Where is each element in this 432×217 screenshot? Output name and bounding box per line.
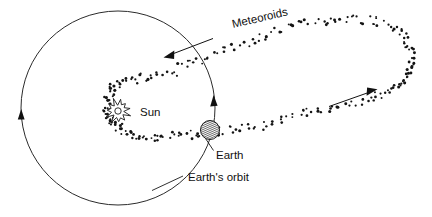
meteoroid-dot — [379, 93, 381, 95]
meteoroid-dot — [374, 96, 377, 99]
meteoroid-dot — [375, 24, 378, 27]
meteoroid-dot — [406, 68, 409, 71]
meteoroid-dot — [207, 57, 209, 59]
meteoroid-dot — [181, 63, 183, 65]
meteoroid-dot — [243, 41, 246, 44]
meteoroid-dot — [252, 38, 255, 41]
meteoroid-dot — [125, 130, 127, 132]
meteoroid-dot — [156, 135, 158, 137]
meteoroid-dot — [145, 80, 147, 82]
meteoroid-dot — [229, 125, 231, 127]
meteoroid-dot — [223, 46, 225, 48]
meteoroid-dot — [125, 77, 128, 80]
meteoroid-dot — [254, 42, 257, 45]
meteoroid-dot — [195, 57, 198, 60]
meteoroid-dot — [138, 73, 141, 76]
meteoroid-dot — [248, 45, 250, 47]
meteoroid-dot — [154, 139, 156, 141]
meteoroid-dot — [350, 100, 352, 102]
meteoroid-dot — [300, 21, 303, 24]
meteoroid-dot — [334, 20, 336, 22]
meteoroid-dot — [381, 97, 383, 99]
earth-label: Earth — [216, 149, 244, 161]
meteoroid-dot — [323, 20, 325, 22]
meteoroid-dot — [405, 32, 407, 34]
meteoroid-arrow-inbound-shaft — [171, 39, 213, 55]
meteoroid-dot — [129, 130, 132, 133]
meteoroid-dot — [222, 133, 224, 135]
meteoroid-dot — [134, 78, 136, 80]
meteoroid-dot — [396, 26, 398, 28]
meteoroid-dot — [166, 71, 169, 74]
meteoroid-dot — [413, 51, 416, 54]
meteoroid-dot — [280, 121, 283, 124]
meteoroid-dot — [195, 134, 197, 136]
meteoroid-dot — [189, 60, 191, 62]
meteoroid-dot — [288, 23, 290, 25]
meteoroid-dot — [271, 120, 274, 123]
meteoroid-dot — [150, 77, 152, 79]
meteoroid-dot — [404, 46, 406, 48]
meteoroid-dot — [344, 102, 347, 105]
meteoroid-dot — [271, 123, 274, 126]
meteoroid-dot — [355, 15, 357, 17]
meteoroid-dot — [314, 22, 316, 24]
meteoroid-dot — [154, 134, 156, 136]
meteoroid-dot — [136, 82, 138, 84]
meteoroid-dot — [121, 79, 124, 82]
meteoroid-dot — [264, 38, 267, 41]
meteoroid-dot — [375, 16, 377, 18]
meteoroid-dot — [335, 105, 338, 108]
meteoroid-dot — [150, 74, 152, 76]
meteoroid-dot — [176, 75, 178, 77]
meteoroid-dot — [125, 80, 127, 82]
meteoroid-dot — [169, 137, 171, 139]
meteoroid-dot — [201, 63, 203, 65]
meteoroid-dot — [402, 80, 404, 82]
meteoroid-dot — [186, 65, 188, 67]
meteoroids-label: Meteoroids — [231, 5, 289, 30]
meteoroid-dot — [190, 130, 192, 132]
meteoroid-dot — [262, 129, 264, 131]
meteoroid-dot — [383, 20, 385, 22]
meteoroid-dot — [104, 107, 106, 109]
meteoroid-dot — [216, 52, 218, 54]
meteoroid-dot — [372, 23, 374, 25]
meteoroid-dot — [114, 121, 117, 124]
meteoroid-dot — [346, 21, 348, 23]
meteoroid-dot — [278, 30, 281, 33]
meteoroid-dot — [328, 110, 331, 113]
meteoroid-dot — [406, 45, 408, 47]
meteoroid-dot — [318, 18, 320, 20]
meteoroid-dot — [411, 47, 414, 50]
meteoroid-dot — [347, 16, 349, 18]
meteoroid-dot — [291, 116, 293, 118]
meteoroid-dot — [156, 139, 159, 142]
meteoroid-dot — [348, 104, 350, 106]
meteoroid-dot — [411, 65, 414, 68]
meteoroid-dot — [138, 137, 141, 140]
meteoroid-dot — [173, 133, 175, 135]
meteoroid-dot — [109, 118, 111, 120]
meteoroid-dot — [120, 133, 122, 135]
meteoroid-dot — [303, 18, 306, 21]
meteoroid-dot — [235, 128, 238, 131]
meteoroid-dot — [192, 61, 194, 63]
meteoroid-dot — [265, 125, 267, 127]
meteoroid-dot — [258, 40, 260, 42]
meteoroid-dot — [373, 99, 375, 101]
meteoroid-dot — [374, 91, 376, 93]
meteoroid-dot — [270, 31, 272, 33]
meteoroid-dot — [367, 100, 370, 103]
meteoroid-dot — [121, 128, 123, 130]
meteoroid-dot — [291, 24, 294, 27]
earths-orbit-label-leader-line — [152, 176, 183, 191]
meteoroid-dot — [187, 60, 189, 62]
meteoroid-dot — [399, 33, 401, 35]
meteoroid-dot — [230, 43, 233, 46]
meteoroid-dot — [329, 107, 332, 110]
meteoroid-dot — [239, 44, 241, 46]
meteoroid-dot — [263, 121, 265, 123]
meteoroid-direction-arrows — [164, 39, 378, 107]
meteoroid-dot — [393, 84, 396, 87]
